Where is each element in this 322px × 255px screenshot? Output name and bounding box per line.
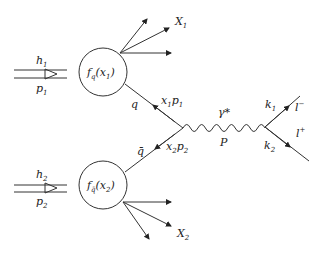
antiquark-momentum: x2p2 bbox=[166, 140, 189, 155]
hadron2-label: h2 bbox=[36, 168, 48, 183]
remnant2-line-b bbox=[123, 202, 171, 226]
lepton-plus-label: l+ bbox=[296, 126, 306, 140]
photon-label: γ* bbox=[218, 106, 231, 119]
antiquark-label: q̄ bbox=[137, 145, 144, 158]
hadron2-line bbox=[14, 183, 67, 193]
remnant2-label: X2 bbox=[176, 227, 190, 242]
lepton-minus-momentum: k1 bbox=[265, 98, 276, 113]
quark-momentum: x1p1 bbox=[161, 94, 183, 109]
quark-arrow-icon bbox=[153, 105, 175, 122]
remnant1-line-b bbox=[120, 28, 169, 53]
remnant1-label: X1 bbox=[174, 15, 187, 30]
photon-line bbox=[183, 125, 265, 132]
hadron1-label: h1 bbox=[36, 54, 48, 69]
remnant2-line-c bbox=[123, 202, 149, 239]
remnant1-line-a bbox=[120, 19, 147, 53]
pdf2-label: fq̄(x2) bbox=[86, 179, 115, 194]
photon-momentum: P bbox=[219, 136, 228, 149]
pdf1-label: fq(x1) bbox=[86, 66, 115, 81]
hadron1-momentum: p1 bbox=[36, 82, 48, 97]
hadron1-line bbox=[14, 69, 67, 79]
lepton-minus-label: l− bbox=[295, 100, 305, 114]
quark-label: q bbox=[131, 98, 138, 111]
lepton-plus-momentum: k2 bbox=[264, 139, 276, 154]
hadron2-momentum: p2 bbox=[36, 195, 48, 210]
feynman-diagram: h1 p1 fq(x1) X1 q x1p1 h2 p2 fq̄(x2) q̄ … bbox=[0, 0, 322, 255]
